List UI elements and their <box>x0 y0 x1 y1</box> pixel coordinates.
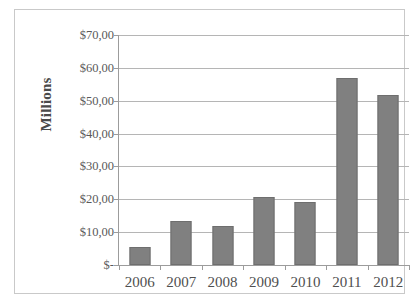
y-axis-tick-label: $70,00 <box>56 29 114 42</box>
x-axis-tick-mark <box>368 265 369 270</box>
x-axis-tick-mark <box>326 265 327 270</box>
x-axis-tick-mark <box>202 265 203 270</box>
bar-slot <box>243 35 284 265</box>
y-axis-tick-mark <box>114 101 119 102</box>
x-axis-tick-label: 2009 <box>243 272 284 292</box>
bar[interactable] <box>171 221 192 265</box>
plot-area <box>119 35 409 265</box>
x-axis-tick-mark <box>285 265 286 270</box>
y-axis-tick-label: $30,00 <box>56 160 114 173</box>
x-axis-tick-mark <box>160 265 161 270</box>
x-axis-tick-label: 2008 <box>202 272 243 292</box>
y-axis-tick-label: $60,00 <box>56 62 114 75</box>
x-axis-tick-label: 2010 <box>285 272 326 292</box>
x-axis-tick-label: 2011 <box>326 272 367 292</box>
bar-slot <box>368 35 409 265</box>
x-axis-tick-mark <box>119 265 120 270</box>
bar[interactable] <box>253 197 274 265</box>
bar[interactable] <box>212 226 233 265</box>
y-axis-tick-label: $- <box>56 259 114 272</box>
chart-frame: Millions $70,00$60,00$50,00$40,00$30,00$… <box>14 9 405 294</box>
x-axis-tick-marks <box>119 265 409 271</box>
bar-series <box>119 35 409 265</box>
bar[interactable] <box>378 95 399 265</box>
y-axis-tick-mark <box>114 134 119 135</box>
x-axis-tick-label: 2007 <box>160 272 201 292</box>
x-axis-tick-label: 2006 <box>119 272 160 292</box>
y-axis-tick-mark <box>114 35 119 36</box>
y-axis-tick-mark <box>114 166 119 167</box>
y-axis-tick-label: $40,00 <box>56 128 114 141</box>
bar-slot <box>326 35 367 265</box>
bar[interactable] <box>336 78 357 265</box>
x-axis-tick-mark <box>409 265 410 270</box>
bar-slot <box>160 35 201 265</box>
x-axis-tick-labels: 2006200720082009201020112012 <box>119 272 409 294</box>
y-axis-tick-mark <box>114 68 119 69</box>
y-axis-title-label: Millions <box>38 77 55 131</box>
y-axis-title: Millions <box>37 44 55 164</box>
bar-slot <box>119 35 160 265</box>
y-axis-tick-mark <box>114 199 119 200</box>
x-axis-tick-mark <box>243 265 244 270</box>
y-axis-tick-label: $50,00 <box>56 95 114 108</box>
y-axis-tick-label: $10,00 <box>56 226 114 239</box>
x-axis-tick-label: 2012 <box>368 272 409 292</box>
bar[interactable] <box>295 202 316 265</box>
y-axis-tick-label: $20,00 <box>56 193 114 206</box>
cropped-title-remnant: figure above the chart frame, cropped <box>95 0 320 5</box>
bar-slot <box>202 35 243 265</box>
bar-slot <box>285 35 326 265</box>
bar[interactable] <box>129 247 150 265</box>
y-axis-tick-labels: $70,00$60,00$50,00$40,00$30,00$20,00$10,… <box>55 28 117 272</box>
y-axis-tick-mark <box>114 232 119 233</box>
